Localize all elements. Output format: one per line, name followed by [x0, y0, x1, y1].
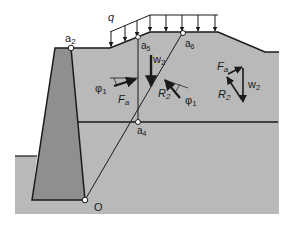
- label-a2: a2: [65, 32, 76, 46]
- backfill-soil: [71, 32, 279, 214]
- label-q: q: [108, 11, 115, 23]
- point-a6: [181, 31, 186, 36]
- label-o: O: [94, 201, 103, 213]
- point-a2: [68, 45, 74, 51]
- point-a4: [136, 120, 141, 125]
- point-o: [82, 197, 88, 203]
- point-a5: [136, 35, 141, 40]
- retaining-wall-diagram: q a2 a5 a6 a4 O w2 φ1 Fa R2 φ1 Fa w2 R2: [0, 0, 291, 225]
